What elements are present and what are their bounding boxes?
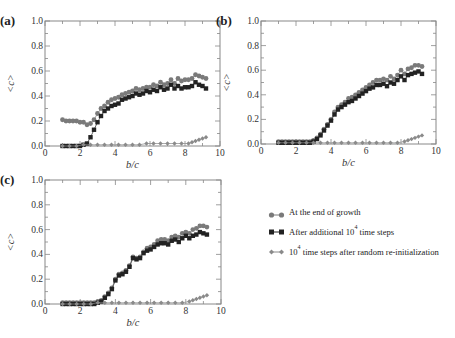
x-tick-label: 6: [148, 306, 153, 316]
x-tick-label: 8: [183, 306, 188, 316]
y-tick-label: 0.0: [31, 299, 43, 309]
y-tick-label: 0.0: [31, 141, 43, 151]
legend-label: At the end of growth: [289, 205, 361, 220]
y-tick-label: 0.2: [247, 114, 259, 124]
x-axis-title: b/c: [126, 159, 139, 170]
y-tick-label: 0.6: [31, 225, 43, 235]
panel-label: (b): [216, 13, 232, 28]
x-tick-label: 8: [399, 146, 404, 156]
y-tick-label: 0.6: [247, 65, 259, 75]
x-axis-title: b/c: [342, 157, 355, 168]
panel-label: (c): [0, 172, 14, 187]
x-tick-label: 4: [113, 306, 118, 316]
y-tick-label: 0.4: [31, 91, 43, 101]
y-tick-label: 0.6: [31, 66, 43, 76]
x-tick-label: 6: [148, 148, 153, 158]
x-tick-label: 10: [215, 148, 225, 158]
plot-frame: [45, 180, 221, 304]
series-square: [60, 230, 209, 306]
y-tick-label: 0.2: [31, 116, 43, 126]
y-tick-label: 0.4: [31, 249, 43, 259]
x-tick-label: 10: [216, 306, 226, 316]
x-axis-title: b/c: [127, 317, 140, 328]
legend-item-growth: At the end of growth: [268, 205, 439, 220]
chart-canvas: 02468100.00.20.40.60.81.0b/c<c>(a)024681…: [0, 0, 455, 338]
x-tick-label: 0: [43, 148, 48, 158]
x-tick-label: 4: [113, 148, 118, 158]
diamond-marker-icon: [268, 246, 286, 254]
panel-a: 02468100.00.20.40.60.81.0b/c<c>(a): [0, 13, 225, 170]
x-tick-label: 6: [364, 146, 369, 156]
series-square: [276, 69, 424, 145]
y-axis-title: <c>: [221, 73, 232, 92]
y-tick-label: 1.0: [247, 16, 259, 26]
square-marker-icon: [268, 226, 286, 234]
y-axis-title: <c>: [5, 233, 16, 252]
legend-item-reinit: 104 time steps after random re-initializ…: [268, 240, 439, 260]
y-tick-label: 1.0: [31, 16, 43, 26]
x-tick-label: 2: [78, 306, 83, 316]
y-tick-label: 0.8: [247, 41, 259, 51]
y-tick-label: 1.0: [31, 175, 43, 185]
x-tick-label: 8: [183, 148, 188, 158]
y-tick-label: 0.2: [31, 274, 43, 284]
x-tick-label: 2: [294, 146, 299, 156]
y-axis-title: <c>: [5, 74, 16, 93]
panel-label: (a): [0, 13, 15, 28]
series-circle: [60, 72, 208, 127]
panel-b: 02468100.00.20.40.60.81.0b/c<c>(b): [216, 13, 441, 168]
y-tick-label: 0.8: [31, 41, 43, 51]
x-tick-label: 2: [78, 148, 83, 158]
legend-item-additional: After additional 104 time steps: [268, 220, 439, 240]
x-tick-label: 10: [431, 146, 441, 156]
legend-label: After additional 104 time steps: [289, 220, 394, 240]
x-tick-label: 0: [43, 306, 48, 316]
x-tick-label: 0: [259, 146, 264, 156]
y-tick-label: 0.4: [247, 90, 259, 100]
legend-label: 104 time steps after random re-initializ…: [289, 240, 439, 260]
panel-c: 02468100.00.20.40.60.81.0b/c<c>(c): [0, 172, 226, 328]
y-tick-label: 0.0: [247, 139, 259, 149]
series-diamond: [276, 133, 424, 145]
y-tick-label: 0.8: [31, 200, 43, 210]
plot-frame: [261, 21, 436, 144]
legend: At the end of growth After additional 10…: [268, 205, 439, 260]
circle-marker-icon: [268, 209, 286, 217]
x-tick-label: 4: [329, 146, 334, 156]
